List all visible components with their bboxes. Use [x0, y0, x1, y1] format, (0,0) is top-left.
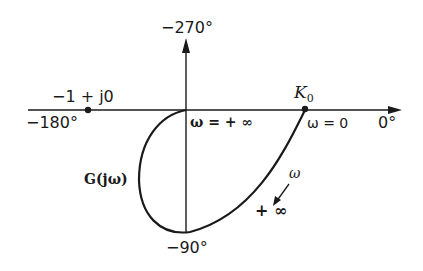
omega-infinity-origin-label: ω = + ∞ — [190, 115, 253, 129]
k0-label: K0 — [294, 84, 314, 104]
k0-point-dot — [302, 106, 308, 112]
arrow-plus-infinity-label: + ∞ — [255, 203, 287, 219]
axis-label-bottom: −90° — [166, 240, 208, 256]
curve-label: G(jω) — [84, 172, 128, 186]
axis-label-left: −180° — [26, 115, 78, 131]
axis-label-top: −270° — [161, 20, 213, 36]
critical-point-dot — [85, 107, 91, 113]
imaginary-axis-arrow-icon — [182, 38, 190, 53]
axis-label-right: 0° — [378, 115, 396, 131]
k0-label-main: K — [294, 82, 307, 102]
arrow-omega-label: ω — [289, 166, 300, 180]
omega-zero-label: ω = 0 — [307, 116, 348, 130]
critical-point-label: −1 + j0 — [52, 89, 114, 105]
k0-label-sub: 0 — [307, 92, 314, 105]
nyquist-diagram: −270° −180° 0° −90° −1 + j0 K0 ω = + ∞ ω… — [0, 0, 423, 271]
plot-canvas — [0, 0, 423, 271]
